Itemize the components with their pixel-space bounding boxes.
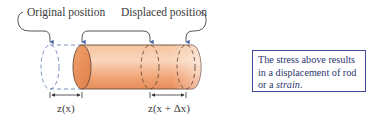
original-position-bracket-right [82, 31, 150, 42]
displaced-position-label: Displaced position [121, 7, 207, 19]
note-line-2: in a displacement of rod [258, 67, 356, 78]
z-x-dx-label: z(x + Δx) [148, 103, 190, 114]
note-line-1: The stress above results [258, 54, 355, 65]
z-x-label: z(x) [57, 103, 75, 114]
note-line-3-prefix: or a [258, 79, 276, 90]
dimension-z-x-dx [150, 92, 186, 98]
original-position-label: Original position [27, 7, 105, 19]
dimension-z-x [50, 92, 82, 98]
strain-diagram: Original position Displaced position z(x… [0, 0, 374, 121]
note-strain-term: strain [276, 79, 300, 90]
strain-note-box: The stress above results in a displaceme… [252, 50, 366, 92]
rod [73, 45, 201, 89]
note-line-3-suffix: . [300, 79, 303, 90]
